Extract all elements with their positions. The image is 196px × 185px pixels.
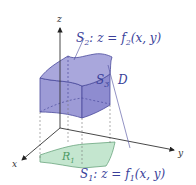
solid-region-diagram: z y x S2: z = f2(x, y) S3 D R1 S1: z = f… (0, 0, 196, 185)
region-d-label: D (117, 73, 128, 87)
z-axis-label: z (56, 14, 62, 24)
region-r1 (40, 142, 115, 168)
s1-equation-label: S1: z = f1(x, y) (80, 167, 166, 183)
y-axis-label: y (177, 148, 184, 158)
s2-equation-label: S2: z = f2(x, y) (76, 31, 162, 47)
x-axis-label: x (12, 159, 17, 169)
